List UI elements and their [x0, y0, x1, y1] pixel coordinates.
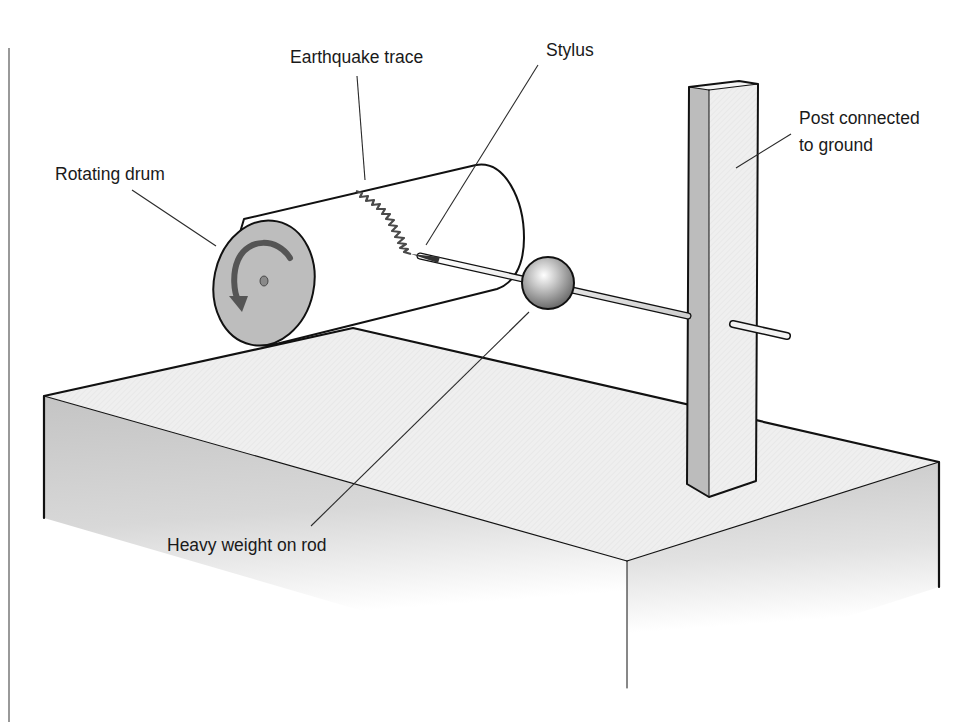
leader-rotating-drum: [132, 190, 216, 246]
label-earthquake-trace: Earthquake trace: [290, 47, 423, 67]
label-heavy-weight: Heavy weight on rod: [167, 535, 327, 555]
post: [687, 81, 758, 497]
label-stylus: Stylus: [546, 40, 594, 60]
post-front: [709, 84, 758, 497]
leader-stylus: [426, 65, 538, 245]
label-post-line2: to ground: [799, 135, 873, 155]
label-rotating-drum: Rotating drum: [55, 164, 165, 184]
weight-ball: [522, 257, 574, 309]
rotating-drum: [202, 165, 524, 355]
post-side: [687, 87, 709, 497]
seismograph-diagram: Earthquake trace Stylus Rotating drum Po…: [0, 0, 974, 722]
drum-axle-icon: [260, 276, 268, 286]
label-post-line1: Post connected: [799, 108, 920, 128]
leader-earthquake-trace: [357, 76, 365, 180]
earthquake-trace: [356, 191, 411, 254]
ground-block: [44, 328, 939, 688]
